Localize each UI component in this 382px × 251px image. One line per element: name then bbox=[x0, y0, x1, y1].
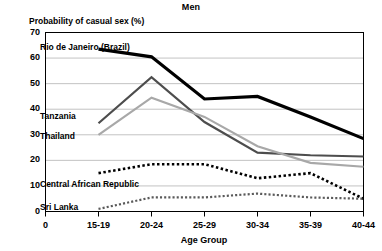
series-annotation: Central African Republic bbox=[40, 179, 139, 189]
x-tick-label: 30-34 bbox=[246, 220, 269, 230]
x-axis-label: Age Group bbox=[45, 235, 363, 245]
y-tick-label: 0 bbox=[18, 206, 40, 216]
y-tick-label: 60 bbox=[18, 52, 40, 62]
x-tick-label: 0 bbox=[43, 220, 48, 230]
y-tick-label: 70 bbox=[18, 27, 40, 37]
x-tick-label: 25-29 bbox=[193, 220, 216, 230]
series-annotation: Rio de Janeiro (Brazil) bbox=[40, 42, 130, 52]
y-tick-label: 30 bbox=[18, 129, 40, 139]
series-annotation: Sri Lanka bbox=[40, 202, 78, 212]
series-line-4 bbox=[99, 194, 364, 209]
chart-screenshot: Men Probability of casual sex (%) 010203… bbox=[0, 0, 382, 251]
y-tick-label: 50 bbox=[18, 78, 40, 88]
plot-area bbox=[0, 0, 382, 251]
x-tick-label: 40-44 bbox=[352, 220, 375, 230]
series-line-1 bbox=[99, 77, 364, 156]
series-annotation: Tanzania bbox=[40, 111, 76, 121]
y-tick-label: 10 bbox=[18, 180, 40, 190]
series-line-0 bbox=[99, 49, 364, 139]
x-tick-marks bbox=[46, 212, 364, 217]
x-tick-label: 20-24 bbox=[140, 220, 163, 230]
y-tick-label: 20 bbox=[18, 154, 40, 164]
series-annotation: Thailand bbox=[40, 131, 75, 141]
y-tick-label: 40 bbox=[18, 103, 40, 113]
x-tick-label: 15-19 bbox=[87, 220, 110, 230]
x-tick-label: 35-39 bbox=[299, 220, 322, 230]
